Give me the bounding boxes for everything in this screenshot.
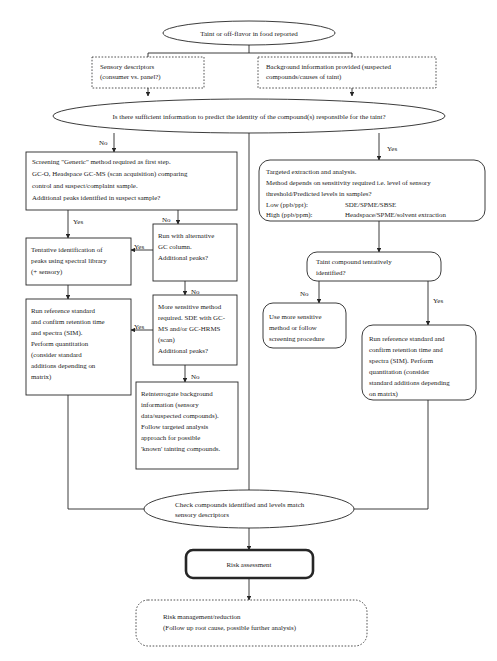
node-check-compounds: Check compounds identified and levels ma…	[144, 490, 354, 528]
more-sensitive-line-3: MS and/or GC-HRMS	[158, 325, 221, 332]
run-reference-left-line-1: Run reference standard	[31, 307, 95, 314]
run-reference-left-line-5: (consider standard	[31, 351, 82, 359]
run-reference-right-line-6: on matrix)	[369, 390, 398, 398]
background-info-line-1: Background information provided (suspect…	[266, 63, 392, 71]
node-alternative-column: Run with alternative GC column. Addition…	[153, 224, 237, 281]
screening-generic-line-3: control and suspect/complaint sample.	[32, 182, 138, 189]
more-sensitive-line-2: required. SDE with GC-	[158, 314, 226, 321]
tentative-id-line-2: peaks using spectral library	[31, 257, 107, 264]
node-use-more-sensitive: Use more sensitive method or follow scre…	[263, 303, 346, 348]
tentative-id-line-1: Tentative identification of	[31, 246, 103, 253]
check-compounds-shape	[144, 490, 354, 528]
targeted-extraction-line-3: threshold/Predicted levels in samples?	[266, 190, 371, 197]
sensory-descriptors-line-1: Sensory descriptors	[100, 63, 154, 70]
run-reference-left-line-2: and confirm retention time	[31, 318, 105, 325]
use-more-sensitive-line-3: screening procedure	[269, 335, 325, 342]
sensory-descriptors-line-2: (consumer vs. panel?)	[100, 73, 161, 81]
targeted-extraction-row-2-label: High (ppb/ppm):	[266, 211, 313, 219]
risk-management-line-1: Risk management/reduction	[163, 613, 241, 620]
connector-reference-right-to-check	[304, 400, 428, 509]
node-targeted-extraction: Targeted extraction and analysis. Method…	[259, 160, 485, 221]
tentative-id-line-3: (+ sensory)	[31, 268, 62, 276]
sufficient-info-label: Is there sufficient information to predi…	[112, 113, 385, 121]
edge-label-alternative-yes: Yes	[134, 243, 144, 251]
node-risk-assessment: Risk assessment	[186, 550, 313, 578]
edge-label-taint-no: No	[300, 290, 309, 298]
run-reference-right-line-5: standard additions depending	[369, 379, 450, 386]
reinterrogate-line-1: Reinterrogate background	[141, 390, 213, 397]
edge-label-sensitive-no: No	[191, 373, 200, 381]
screening-generic-line-2: GC-O, Headspace GC-MS (scan acquisition)…	[32, 170, 188, 178]
taint-tentatively-identified-shape	[307, 252, 441, 281]
alternative-column-line-2: GC column.	[158, 243, 192, 250]
risk-management-shape	[136, 600, 367, 646]
node-run-reference-right: Run reference standard and confirm reten…	[362, 325, 476, 400]
use-more-sensitive-line-2: method or follow	[269, 324, 317, 331]
edge-label-screening-yes: Yes	[73, 218, 83, 226]
flowchart-svg: Taint or off-flavor in food reported Sen…	[0, 0, 497, 661]
targeted-extraction-line-1: Targeted extraction and analysis.	[266, 168, 357, 175]
node-run-reference-left: Run reference standard and confirm reten…	[26, 299, 131, 395]
alternative-column-line-1: Run with alternative	[158, 232, 214, 239]
screening-generic-line-4: Additional peaks identified in suspect s…	[32, 194, 160, 201]
check-compounds-line-1: Check compounds identified and levels ma…	[175, 501, 305, 509]
edge-label-taint-yes: Yes	[433, 297, 443, 305]
node-tentative-id: Tentative identification of peaks using …	[26, 238, 131, 285]
node-more-sensitive-method: More sensitive method required. SDE with…	[153, 295, 237, 365]
start-label: Taint or off-flavor in food reported	[200, 30, 298, 38]
taint-tentatively-identified-line-1: Taint compound tentatively	[316, 258, 392, 265]
node-reinterrogate: Reinterrogate background information (se…	[136, 382, 238, 469]
risk-management-line-2: (Follow up root cause, possible further …	[163, 624, 296, 632]
edge-label-screening-no: No	[162, 216, 171, 224]
run-reference-left-line-4: Perform quantitation	[31, 340, 89, 347]
use-more-sensitive-line-1: Use more sensitive	[269, 313, 321, 320]
run-reference-right-line-4: quantitation (consider	[369, 368, 430, 376]
risk-assessment-label: Risk assessment	[227, 561, 272, 568]
targeted-extraction-row-2-value: Headspace/SPME/solvent extraction	[345, 211, 446, 218]
targeted-extraction-row-1-label: Low (ppb/ppt):	[266, 201, 308, 209]
reinterrogate-line-5: approach for possible	[141, 434, 200, 441]
background-info-line-2: compounds/causes of taint)	[266, 73, 341, 81]
reinterrogate-line-2: information (sensory	[141, 401, 199, 409]
run-reference-right-line-1: Run reference standard and	[369, 335, 445, 342]
run-reference-right-line-2: confirm retention time and	[369, 346, 443, 353]
edge-label-sensitive-yes: Yes	[134, 323, 144, 331]
run-reference-right-line-3: spectra (SIM). Perform	[369, 357, 434, 365]
targeted-extraction-line-2: Method depends on sensitivity required i…	[266, 179, 431, 186]
run-reference-left-line-3: and spectra (SIM).	[31, 329, 83, 337]
reinterrogate-line-4: Follow targeted analysis	[141, 423, 209, 430]
node-taint-tentatively-identified: Taint compound tentatively identified?	[307, 252, 441, 281]
edge-label-sufficient-yes: Yes	[387, 145, 397, 153]
alternative-column-line-3: Additional peaks?	[158, 254, 208, 261]
node-risk-management: Risk management/reduction (Follow up roo…	[136, 600, 367, 646]
node-start: Taint or off-flavor in food reported	[163, 21, 335, 45]
node-screening-generic: Screening "Generic" method required as f…	[26, 152, 237, 210]
more-sensitive-line-5: Additional peaks?	[158, 347, 208, 354]
run-reference-left-line-7: matrix)	[31, 373, 51, 381]
node-sensory-descriptors: Sensory descriptors (consumer vs. panel?…	[92, 57, 204, 88]
flowchart-canvas: Taint or off-flavor in food reported Sen…	[0, 0, 497, 661]
reinterrogate-line-6: 'known' tainting compounds.	[141, 445, 221, 452]
more-sensitive-line-4: (scan)	[158, 336, 175, 344]
edge-label-sufficient-no: No	[99, 139, 108, 147]
node-sufficient-info: Is there sufficient information to predi…	[53, 99, 445, 133]
taint-tentatively-identified-line-2: identified?	[316, 269, 345, 276]
run-reference-left-line-6: additions depending on	[31, 362, 96, 369]
reinterrogate-line-3: data/suspected compounds).	[141, 412, 219, 420]
more-sensitive-line-1: More sensitive method	[158, 303, 222, 310]
targeted-extraction-row-1-value: SDE/SPME/SBSE	[345, 201, 396, 208]
check-compounds-line-2: sensory descriptors	[175, 511, 229, 519]
node-background-info: Background information provided (suspect…	[258, 57, 436, 88]
screening-generic-line-1: Screening "Generic" method required as f…	[32, 158, 171, 165]
